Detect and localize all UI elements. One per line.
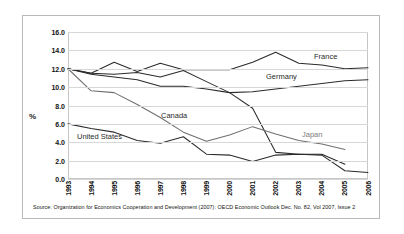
x-tick-label: 2006 [365,181,372,196]
x-tick-label: 1999 [203,181,210,196]
series-label-france: France [314,52,337,61]
plot-area: FranceGermanyCanadaJapanUnited States [68,32,368,179]
y-tick-label: 14.0 [39,47,65,54]
y-tick-label: 2.0 [39,157,65,164]
y-axis-tick-labels: 0.02.04.06.08.010.012.014.016.0 [35,32,65,179]
y-tick-label: 4.0 [39,139,65,146]
y-tick-label: 0.0 [39,176,65,183]
chart-figure: % 0.02.04.06.08.010.012.014.016.0 France… [22,15,380,219]
x-tick-label: 2001 [249,181,256,196]
y-tick-label: 10.0 [39,84,65,91]
x-tick-label: 1993 [65,181,72,196]
source-caption: Source: Organization for Economics Coope… [33,204,373,210]
gridline [68,142,368,143]
gridline [68,106,368,107]
x-tick-label: 1995 [111,181,118,196]
gridline [68,69,368,70]
gridline [68,161,368,162]
gridline [68,32,368,33]
y-tick-label: 6.0 [39,120,65,127]
series-line-canada [68,69,345,165]
y-tick-label: 16.0 [39,29,65,36]
y-tick-label: 12.0 [39,65,65,72]
x-tick-label: 1996 [134,181,141,196]
x-tick-label: 2000 [226,181,233,196]
x-tick-label: 2004 [318,181,325,196]
x-tick-label: 1998 [180,181,187,196]
series-line-germany [68,69,368,93]
gridline [68,124,368,125]
series-label-united-states: United States [77,132,122,141]
series-label-japan: Japan [302,130,322,139]
x-tick-label: 1994 [88,181,95,196]
series-label-germany: Germany [266,72,297,81]
y-tick-label: 8.0 [39,102,65,109]
x-tick-label: 1997 [157,181,164,196]
x-tick-label: 2002 [272,181,279,196]
x-tick-label: 2005 [341,181,348,196]
series-label-canada: Canada [161,111,187,120]
gridline [68,87,368,88]
x-tick-label: 2003 [295,181,302,196]
